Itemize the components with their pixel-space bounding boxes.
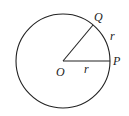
label-p: P <box>112 54 121 68</box>
label-q: Q <box>94 10 103 24</box>
radius-oq <box>63 25 93 61</box>
label-r-op: r <box>84 62 89 76</box>
circle-diagram: O P Q r r <box>0 0 129 116</box>
label-o: O <box>56 65 65 79</box>
label-r-arc: r <box>110 29 115 43</box>
